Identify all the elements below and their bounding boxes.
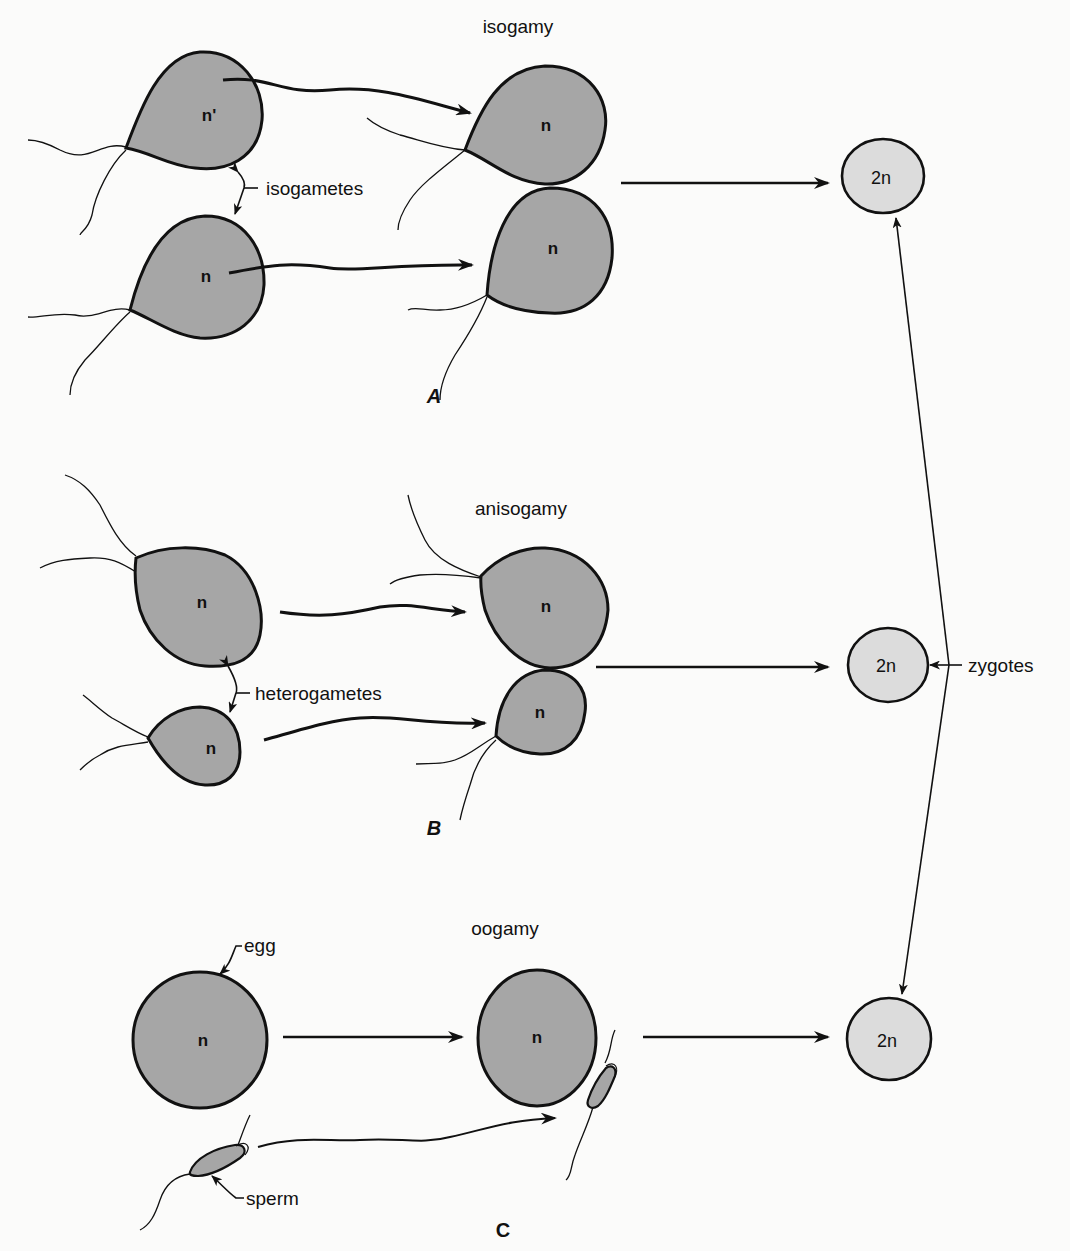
panel-a-title: isogamy [483,16,554,37]
cell-label: n' [202,106,216,125]
zygotes-label: zygotes [968,655,1033,676]
gamete-types-diagram: isogamy n' n isogametes [0,0,1070,1251]
zygote-label: 2n [877,1031,897,1051]
zygotes-column: 2n 2n 2n zygotes [842,139,1033,1080]
zygote-b: 2n [848,628,928,702]
sperm-movement-arrow [258,1118,555,1147]
zygote-c: 2n [847,998,931,1080]
heterogametes-label: heterogametes [255,683,382,704]
sperm-cell [140,1115,250,1230]
movement-arrow [264,717,485,740]
zygote-a: 2n [842,139,924,213]
panel-b-title: anisogamy [475,498,567,519]
panel-letter-c: C [496,1219,510,1241]
zygote-label: 2n [871,168,891,188]
isogametes-annotation: isogametes [235,172,363,214]
egg-annotation: egg [220,935,276,974]
isogametes-label: isogametes [266,178,363,199]
movement-arrow [280,605,465,615]
panel-c-title: oogamy [471,918,539,939]
panel-b-anisogamy: anisogamy n n heterogametes [40,475,828,839]
panel-letter-a: A [426,385,441,407]
sperm-annotation: sperm [212,1176,299,1209]
fusing-isogametes: n n [367,66,612,400]
heterogamete-small: n [80,695,240,785]
cell-label: n [201,267,211,286]
cell-label: n [532,1028,542,1047]
isogamete-bottom: n [28,216,264,395]
cell-label: n [541,116,551,135]
zygotes-annotation: zygotes [896,218,1033,994]
cell-label: n [198,1031,208,1050]
panel-letter-b: B [427,817,441,839]
zygote-label: 2n [876,656,896,676]
cell-label: n [548,239,558,258]
fusing-heterogametes: n n [390,495,608,820]
movement-arrow [229,265,472,273]
cell-label: n [541,597,551,616]
cell-label: n [535,703,545,722]
sperm-label: sperm [246,1188,299,1209]
fertilizing-egg: n [478,970,617,1180]
panel-c-oogamy: oogamy n egg sperm n [133,918,828,1241]
cell-label: n [206,739,216,758]
heterogametes-annotation: heterogametes [228,666,382,712]
heterogamete-large: n [40,475,261,666]
cell-label: n [197,593,207,612]
egg-cell: n [133,972,267,1108]
egg-label: egg [244,935,276,956]
panel-a-isogamy: isogamy n' n isogametes [28,16,828,407]
